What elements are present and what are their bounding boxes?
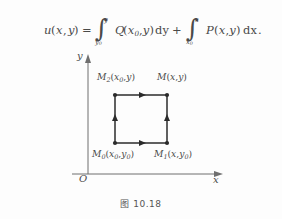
arrowhead-bottom-right-direction — [139, 140, 146, 146]
formula-period: . — [258, 23, 262, 37]
formula-lhs-var-x: x — [56, 23, 63, 37]
formula-plus-sign: + — [172, 23, 182, 37]
figure-caption: 图 10.18 — [0, 197, 282, 210]
formula-lhs-open-paren: ( — [51, 23, 56, 37]
formula-function-P: P — [206, 23, 214, 37]
arrowhead-right-up-direction — [164, 114, 170, 121]
formula-equals-sign: = — [82, 23, 92, 37]
arrowhead-left-up-direction — [112, 114, 118, 121]
y-axis-label: y — [77, 50, 83, 61]
vertex-M2-dot — [113, 93, 117, 97]
formula-P-args: (x,y) — [214, 23, 241, 37]
formula-expression: u ( x , y ) = ∫ y y0 Q (x0,y) dy + ∫ x x… — [0, 14, 282, 46]
formula-differential-dx: dx — [243, 23, 257, 37]
point-label-M0: M0(x0,y0) — [92, 148, 134, 161]
point-label-M2: M2(x0,y) — [97, 71, 135, 84]
integral-upper-limit-first: y — [104, 16, 108, 24]
formula-differential-dy: dy — [155, 23, 169, 37]
formula-Q-args: (x0,y) — [123, 23, 154, 38]
figure-page: u ( x , y ) = ∫ y y0 Q (x0,y) dy + ∫ x x… — [0, 0, 282, 219]
coordinate-diagram: y x O M2(x0,y) M(x,y) M0(x0,y0) M1(x,y0) — [0, 46, 282, 196]
point-label-M1: M1(x,y0) — [154, 148, 192, 161]
diagram-canvas — [0, 46, 282, 196]
formula-lhs-comma: , — [63, 23, 67, 37]
vertex-M0-dot — [113, 141, 117, 145]
arrowhead-top-right-direction — [139, 92, 146, 98]
x-axis-label: x — [213, 174, 219, 185]
vertex-M-dot — [165, 93, 169, 97]
formula-lhs-close-paren: ) — [74, 23, 79, 37]
y-axis-arrowhead — [85, 54, 91, 63]
origin-label: O — [79, 173, 87, 184]
vertex-M1-dot — [165, 141, 169, 145]
point-label-M: M(x,y) — [157, 71, 187, 82]
integral-upper-limit-second: x — [195, 16, 199, 24]
